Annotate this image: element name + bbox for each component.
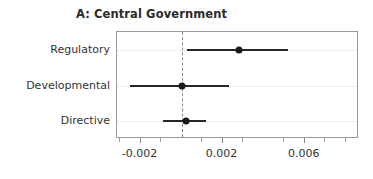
x-tick-minor [119, 138, 120, 142]
y-axis-category-labels: RegulatoryDevelopmentalDirective [0, 31, 110, 138]
x-tick-label: 0.006 [288, 147, 320, 160]
x-tick-major [140, 138, 141, 143]
x-tick-minor [324, 138, 325, 142]
x-tick-minor [242, 138, 243, 142]
x-tick-minor [160, 138, 161, 142]
x-tick-minor [345, 138, 346, 142]
point-estimate-directive [182, 118, 189, 125]
point-estimate-developmental [178, 82, 185, 89]
point-estimate-regulatory [236, 46, 243, 53]
x-tick-major [304, 138, 305, 143]
y-axis-label-directive: Directive [61, 114, 110, 127]
x-tick-minor [201, 138, 202, 142]
x-axis-tick-labels: -0.0020.0020.006 [116, 147, 358, 165]
x-tick-major [222, 138, 223, 143]
coefficient-plot-figure: A: Central Government RegulatoryDevelopm… [0, 0, 373, 179]
x-axis-tick-group [116, 138, 358, 144]
x-tick-minor [283, 138, 284, 142]
x-tick-label: -0.002 [122, 147, 157, 160]
y-axis-label-developmental: Developmental [26, 78, 110, 91]
plot-area [116, 31, 358, 138]
gridline-directive [117, 121, 357, 122]
x-tick-label: 0.002 [206, 147, 238, 160]
chart-title: A: Central Government [76, 7, 227, 21]
y-axis-label-regulatory: Regulatory [50, 42, 110, 55]
